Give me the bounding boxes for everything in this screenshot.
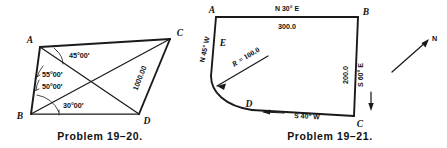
vertex-label-a: A (26, 35, 33, 45)
length-label-ab: 300.0 (278, 22, 296, 31)
angle-tick-a-start (54, 48, 58, 52)
bearing-label-cd: S 40° W (294, 112, 320, 120)
angle-label-55: 55°00′ (42, 70, 63, 79)
angle-label-50: 50°00′ (42, 82, 63, 91)
radius-arrow-head (217, 84, 226, 91)
bearing-label-ea: N 45° W (198, 36, 210, 63)
vertex-label-c2: C (357, 119, 364, 129)
length-label-bc: 200.0 (341, 66, 350, 84)
technical-drawing-canvas: A B C D 45°00′ 55°00′ 50°00′ 30°00′ 1000… (0, 0, 447, 148)
figure-sheet: A B C D 45°00′ 55°00′ 50°00′ 30°00′ 1000… (0, 0, 447, 148)
north-arrow-head (422, 39, 430, 48)
vertex-label-d: D (143, 116, 151, 126)
dimension-label-cd: 1000.00 (131, 64, 149, 91)
edge-a-c (40, 39, 170, 47)
figure-problem-19-21: N A B C D E N 30° E 300.0 200.0 S 60° E … (198, 5, 437, 142)
figure-problem-19-20: A B C D 45°00′ 55°00′ 50°00′ 30°00′ 1000… (16, 28, 184, 142)
north-arrow-line (392, 42, 426, 72)
course-line-e-a (211, 17, 216, 76)
vertex-label-d2: D (245, 99, 253, 109)
vertex-label-b2: B (362, 7, 369, 17)
angle-arc-b-middle (36, 80, 39, 90)
caption-problem-19-21: Problem 19–21. (287, 130, 372, 142)
vertex-label-a2: A (208, 5, 215, 15)
bearing-label-ab: N 30° E (275, 5, 300, 12)
vertex-label-c: C (177, 28, 184, 38)
north-arrow-label: N (432, 34, 437, 43)
vertex-label-e2: E (219, 38, 226, 48)
angle-label-30: 30°00′ (63, 101, 84, 110)
angle-label-45: 45°00′ (69, 51, 90, 60)
curve-radius-label: R= 100.0 (229, 45, 261, 69)
vertex-label-b: B (16, 111, 23, 121)
bearing-label-bc: S 60° E (357, 63, 364, 87)
caption-problem-19-20: Problem 19–20. (57, 130, 142, 142)
course-direction-arrow-head-bc (368, 103, 373, 111)
